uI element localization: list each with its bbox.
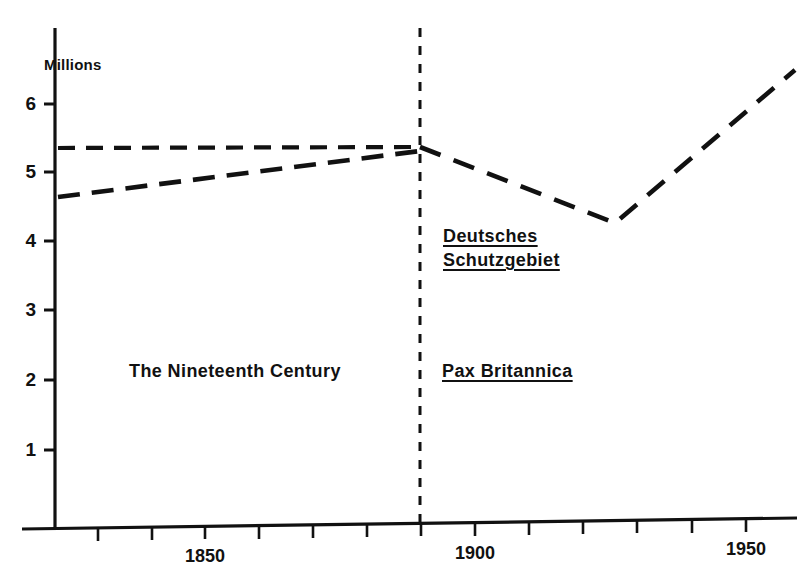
y-axis-unit-label: Millions [44,56,101,73]
annotation-pax-britannica: Pax Britannica [442,361,573,382]
x-axis-line [22,518,797,529]
x-tick-label-1850: 1850 [170,546,240,567]
y-tick-label-4: 4 [12,230,36,252]
y-tick-label-3: 3 [12,299,36,321]
x-tick-label-1950: 1950 [711,539,781,560]
y-tick-label-2: 2 [12,369,36,391]
series-lower-rising-line [58,151,420,197]
y-tick-label-6: 6 [12,93,36,115]
annotation-schutzgebiet: Schutzgebiet [443,250,560,271]
annotation-the-nineteenth-century: The Nineteenth Century [129,361,341,382]
y-tick-label-1: 1 [12,439,36,461]
series-upper-flat-line [58,147,420,148]
x-tick-label-1900: 1900 [440,543,510,564]
y-tick-label-5: 5 [12,161,36,183]
annotation-deutsches: Deutsches [443,226,538,247]
chart-plot-area [0,0,808,569]
chart-root: Millions 6 5 4 3 2 1 1850 1900 1950 The … [0,0,808,569]
series-post-1890-line [420,70,795,223]
